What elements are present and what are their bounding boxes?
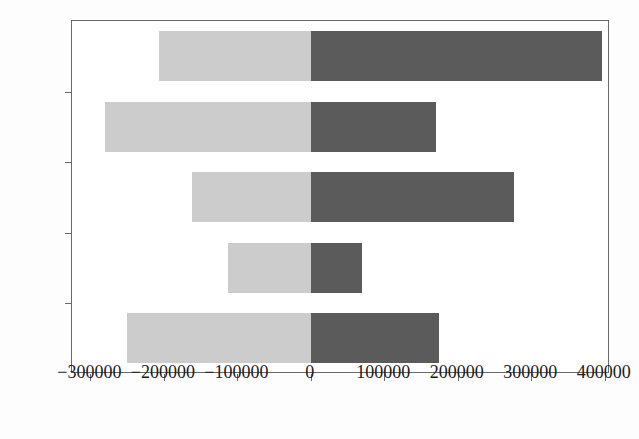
y-axis-tick	[65, 92, 72, 93]
bar-segment-negative-2019	[159, 31, 311, 81]
bar-segment-negative-2017	[192, 172, 311, 222]
bar-segment-negative-2015	[127, 313, 311, 363]
y-axis-tick	[65, 233, 72, 234]
y-axis-tick	[65, 303, 72, 304]
plot-area	[71, 20, 609, 373]
chart-figure: 20192018201720162015−300000−200000−10000…	[0, 0, 639, 439]
bar-segment-positive-2018	[311, 102, 436, 152]
y-axis-tick	[65, 162, 72, 163]
bar-group-2018	[72, 92, 608, 163]
bar-segment-positive-2017	[311, 172, 515, 222]
bar-segment-positive-2019	[311, 31, 602, 81]
bar-group-2019	[72, 21, 608, 92]
bar-segment-negative-2016	[228, 243, 311, 293]
bar-group-2016	[72, 233, 608, 304]
bar-segment-positive-2016	[311, 243, 362, 293]
bar-group-2017	[72, 162, 608, 233]
bar-segment-positive-2015	[311, 313, 439, 363]
x-axis-label-7: 400000	[544, 362, 639, 383]
bar-segment-negative-2018	[105, 102, 311, 152]
